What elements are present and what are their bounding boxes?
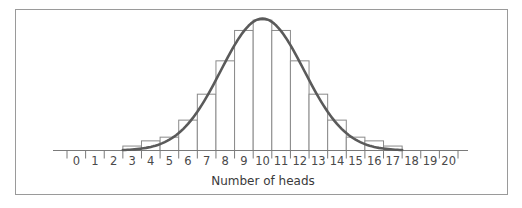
x-tick-label-10: 10 — [255, 154, 270, 168]
histogram-bar-9 — [235, 30, 254, 150]
x-tick-label-6: 6 — [184, 154, 191, 168]
x-tick-label-7: 7 — [203, 154, 210, 168]
x-tick-label-16: 16 — [367, 154, 382, 168]
x-tick-label-17: 17 — [386, 154, 401, 168]
x-tick-label-15: 15 — [348, 154, 363, 168]
histogram-chart: 01234567891011121314151617181920 Number … — [0, 0, 522, 208]
x-tick-label-13: 13 — [311, 154, 326, 168]
histogram-bar-11 — [272, 30, 291, 150]
x-axis-tick-labels: 01234567891011121314151617181920 — [73, 154, 456, 168]
x-tick-label-5: 5 — [166, 154, 173, 168]
x-tick-label-20: 20 — [441, 154, 456, 168]
x-tick-label-8: 8 — [222, 154, 229, 168]
histogram-bar-13 — [309, 94, 328, 150]
x-tick-label-18: 18 — [404, 154, 419, 168]
x-tick-label-0: 0 — [73, 154, 80, 168]
x-tick-label-1: 1 — [91, 154, 98, 168]
histogram-bar-10 — [253, 20, 272, 150]
x-tick-label-19: 19 — [423, 154, 438, 168]
x-tick-label-11: 11 — [274, 154, 289, 168]
x-tick-label-3: 3 — [129, 154, 136, 168]
x-axis-title: Number of heads — [211, 174, 315, 188]
x-tick-label-2: 2 — [110, 154, 117, 168]
x-tick-label-12: 12 — [292, 154, 307, 168]
x-tick-label-4: 4 — [147, 154, 154, 168]
x-tick-label-9: 9 — [240, 154, 247, 168]
histogram-bar-7 — [197, 94, 216, 150]
histogram-bars — [123, 20, 402, 150]
x-tick-label-14: 14 — [330, 154, 345, 168]
